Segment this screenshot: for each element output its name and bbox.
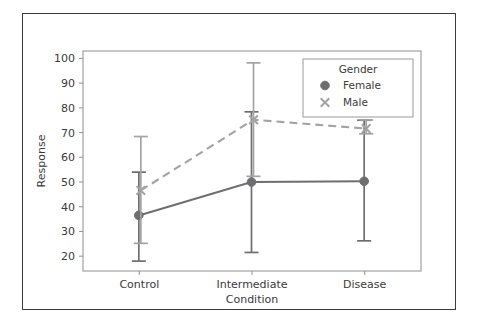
y-tick-label: 30 <box>61 225 75 238</box>
data-point-female-disease[interactable] <box>360 177 369 186</box>
y-tick-label: 100 <box>54 52 75 65</box>
data-point-female-control[interactable] <box>135 211 144 220</box>
y-tick-label: 90 <box>61 77 75 90</box>
y-tick-label: 60 <box>61 151 75 164</box>
y-tick-label: 70 <box>61 127 75 140</box>
y-axis-title: Response <box>35 134 48 187</box>
legend-marker-female <box>321 81 330 90</box>
y-tick-label: 80 <box>61 102 75 115</box>
y-tick-label: 40 <box>61 201 75 214</box>
x-tick-label-disease: Disease <box>343 278 386 291</box>
y-tick-label: 50 <box>61 176 75 189</box>
legend-label-female: Female <box>343 79 381 91</box>
x-tick-label-control: Control <box>119 278 159 291</box>
y-tick-label: 20 <box>61 250 75 263</box>
x-axis-title: Condition <box>226 293 279 306</box>
legend: GenderFemaleMale <box>303 59 413 117</box>
legend-title: Gender <box>339 63 378 75</box>
line-chart: 2030405060708090100ControlIntermediateDi… <box>23 14 457 311</box>
x-tick-label-intermediate: Intermediate <box>217 278 288 291</box>
legend-label-male: Male <box>343 96 368 108</box>
error-bar-male-disease <box>359 120 373 134</box>
figure-frame: 2030405060708090100ControlIntermediateDi… <box>22 13 456 310</box>
data-point-female-intermediate[interactable] <box>247 178 256 187</box>
